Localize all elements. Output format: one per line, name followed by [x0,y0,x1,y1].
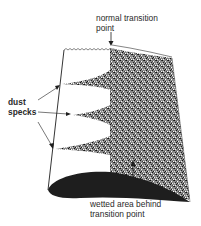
wetted-label: wetted area behind transition point [90,200,161,219]
dust-arrow-upper [38,87,58,100]
leading-edge [48,50,64,190]
transition-label: normal transition point [96,14,158,33]
wetted-label-line2: transition point [90,210,161,220]
dust-label-line2: specks [8,108,36,118]
transition-label-line2: point [96,24,158,34]
dust-wedge-lower [56,136,110,155]
dust-wedge-middle [73,105,110,125]
dust-arrow-middle [38,112,68,114]
dust-arrow-middle-head [66,112,71,116]
dust-wedge-upper [62,70,110,90]
dust-label: dust specks [8,98,36,117]
laminar-top-edge [64,49,112,51]
dust-arrow-lower-head [49,143,54,149]
dust-arrow-lower [38,122,52,146]
